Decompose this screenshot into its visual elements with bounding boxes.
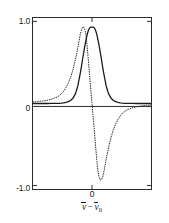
absorption-curve <box>33 27 151 103</box>
x-axis-title: v−v0 <box>32 203 152 214</box>
y-tick-label-1.0: 1.0 <box>19 17 30 26</box>
figure-container: 1.0 0 -1.0 0 v−v0 <box>0 0 169 223</box>
minus-operator: − <box>86 202 94 212</box>
plot-area: 1.0 0 -1.0 0 <box>32 17 152 190</box>
nu-bar-zero-symbol: v <box>95 203 99 213</box>
nu-bar-symbol: v <box>82 203 86 213</box>
chart-canvas <box>33 18 151 189</box>
x-tick-label-0: 0 <box>90 190 95 199</box>
nu-zero-subscript: 0 <box>99 206 102 213</box>
y-tick-label-0: 0 <box>25 103 30 112</box>
y-tick-label-minus-1.0: -1.0 <box>16 183 30 192</box>
